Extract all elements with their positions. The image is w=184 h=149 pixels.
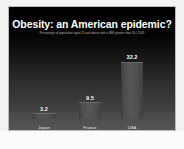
bar-chart-plot-area: 3.2 Japan 9.5 France 32.2 USA <box>9 39 176 131</box>
slide-page-background: Obesity: an American epidemic? Percentag… <box>0 0 184 149</box>
bar-value-label: 9.5 <box>67 95 113 101</box>
bar-category-label: USA <box>109 125 155 130</box>
bar-value-label: 3.2 <box>21 106 67 112</box>
bar-france <box>79 102 101 119</box>
slide-title: Obesity: an American epidemic? <box>9 18 175 30</box>
bar-category-label: France <box>67 125 113 130</box>
bar-value-label: 32.2 <box>109 54 155 60</box>
page-bottom-strip <box>0 131 184 149</box>
bar-category-label: Japan <box>21 125 67 130</box>
bar-usa <box>121 62 143 119</box>
slide-subtitle: Percentage of population aged 15 and abo… <box>9 31 175 35</box>
presentation-slide: Obesity: an American epidemic? Percentag… <box>8 6 176 131</box>
bar-japan <box>33 113 55 119</box>
